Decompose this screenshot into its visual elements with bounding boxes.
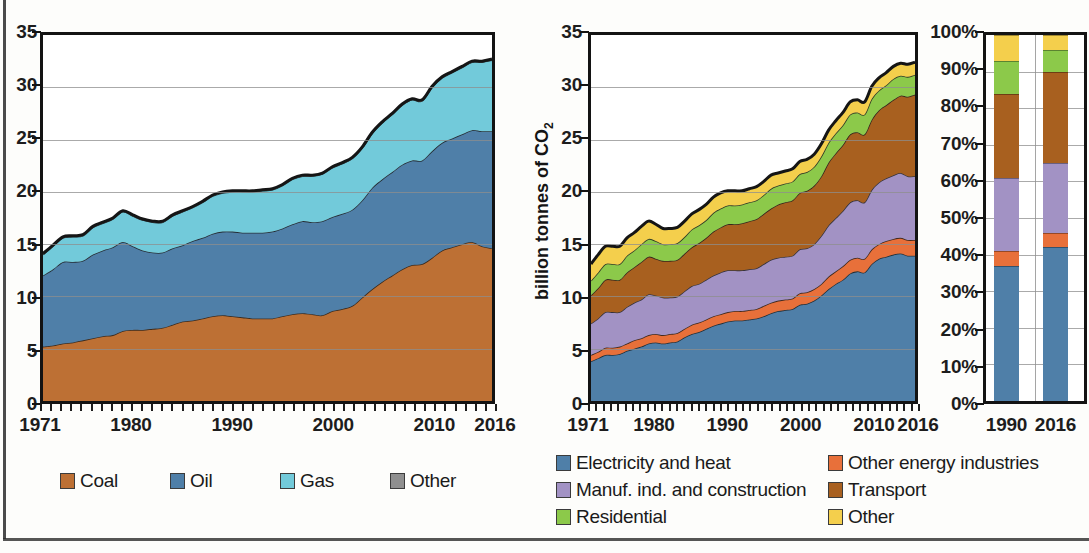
stacked-bar-2016[interactable] [1043,35,1069,401]
x-axis-co2-by-fuel-minor-tick [60,404,62,411]
x-axis-co2-by-fuel-minor-tick [364,404,366,411]
bar-segment-transport [994,94,1020,178]
y-axis-co2-by-fuel-tick-mark [32,31,41,33]
x-axis-co2-by-sector-minor-tick [603,404,605,411]
legend-sector-item[interactable]: Other [828,506,894,528]
gridline-co2-by-fuel [43,296,492,297]
legend-sector-label: Other [848,506,894,528]
legend-sector-item[interactable]: Other energy industries [828,452,1039,474]
x-axis-co2-by-fuel-minor-tick [495,404,497,411]
legend-sector-item[interactable]: Electricity and heat [556,452,731,474]
y-axis-sector-share-tick-mark [975,329,984,331]
y-axis-sector-share-tick-mark [975,254,984,256]
y-axis-co2-by-sector-tick-label: 25 [561,127,582,149]
y-axis-co2-by-sector-tick-label: 35 [561,21,582,43]
legend-sector-item[interactable]: Transport [828,479,926,501]
x-axis-co2-by-sector-minor-tick [676,404,678,411]
y-axis-co2-by-sector-tick-label: 30 [561,74,582,96]
x-axis-co2-by-fuel-minor-tick [101,404,103,411]
x-axis-co2-by-fuel-minor-tick [121,404,123,411]
x-axis-co2-by-sector-minor-tick [911,404,913,411]
y-axis-sector-share-tick-mark [975,403,984,405]
x-axis-co2-by-sector-minor-tick [815,404,817,411]
y-axis-co2-by-sector-tick-mark [580,297,589,299]
y-axis-sector-share-tick-label: 10% [941,356,978,378]
y-axis-co2-by-sector-tick-label: 10 [561,287,582,309]
x-axis-co2-by-fuel-minor-tick [353,404,355,411]
legend-swatch-icon [828,509,843,525]
chart-co2-by-fuel: 05101520253035 197119801990200020102016 [0,0,510,440]
legend-fuel-item[interactable]: Other [390,470,456,492]
x-axis-co2-by-sector-minor-tick [713,404,715,411]
y-axis-co2-by-sector-tick-label: 20 [561,180,582,202]
y-axis-sector-share-tick-mark [975,105,984,107]
x-axis-co2-by-sector-minor-tick [749,404,751,411]
legend-swatch-icon [828,455,843,471]
x-axis-co2-by-fuel-minor-tick [222,404,224,411]
gridline-co2-by-fuel [43,349,492,350]
x-axis-co2-by-fuel-tick-label: 1990 [211,414,252,436]
bar-segment-transport [1043,72,1069,164]
stacked-area-co2-by-fuel [43,35,492,401]
x-axis-co2-by-sector-minor-tick [852,404,854,411]
x-axis-co2-by-fuel-minor-tick [262,404,264,411]
x-axis-co2-by-sector-minor-tick [903,404,905,411]
y-axis-co2-by-fuel-tick-mark [32,297,41,299]
y-axis-sector-share-tick-mark [975,143,984,145]
x-axis-co2-by-fuel-minor-tick [141,404,143,411]
bar-segment-manuf-ind-and-construction [1043,163,1069,233]
legend-swatch-icon [828,482,843,498]
x-axis-co2-by-fuel-minor-tick [475,404,477,411]
legend-fuel-label: Other [410,470,456,492]
gridline-co2-by-sector [591,87,915,88]
x-axis-co2-by-sector-minor-tick [691,404,693,411]
legend-fuel-item[interactable]: Coal [60,470,118,492]
x-axis-co2-by-fuel-minor-tick [434,404,436,411]
bar-segment-residential [994,61,1020,94]
legend-sector-item[interactable]: Manuf. ind. and construction [556,479,806,501]
bar-segment-other-energy-industries [1043,233,1069,248]
gridline-co2-by-sector [591,140,915,141]
x-axis-co2-by-fuel-minor-tick [313,404,315,411]
legend-swatch-icon [60,473,75,489]
legend-sector-label: Electricity and heat [576,452,731,474]
stacked-bar-1990[interactable] [994,35,1020,401]
stacked-area-co2-by-sector [591,35,915,401]
x-axis-co2-by-sector-minor-tick [859,404,861,411]
x-axis-co2-by-sector-minor-tick [801,404,803,411]
x-axis-sector-share-tick-label: 1990 [986,414,1027,436]
legend-swatch-icon [556,482,571,498]
y-axis-co2-by-sector-tick-mark [580,244,589,246]
x-axis-co2-by-sector-minor-tick [683,404,685,411]
y-axis-co2-by-fuel-tick-mark [32,244,41,246]
legend-sector-label: Manuf. ind. and construction [576,479,806,501]
legend-fuel-item[interactable]: Oil [170,470,212,492]
legend-fuels: CoalOilGasOther [60,470,500,510]
legend-fuel-item[interactable]: Gas [280,470,334,492]
x-axis-co2-by-fuel-minor-tick [485,404,487,411]
legend-sector-item[interactable]: Residential [556,506,667,528]
gridline-co2-by-fuel [43,87,492,88]
x-axis-co2-by-sector-minor-tick [632,404,634,411]
x-axis-co2-by-sector-minor-tick [793,404,795,411]
y-axis-sector-share-tick-label: 100% [930,21,978,43]
x-axis-co2-by-fuel-minor-tick [384,404,386,411]
bar-segment-residential [1043,50,1069,72]
x-axis-co2-by-fuel-minor-tick [91,404,93,411]
x-axis-co2-by-fuel-minor-tick [232,404,234,411]
x-axis-co2-by-sector-minor-tick [669,404,671,411]
y-axis-co2-by-fuel-tick-mark [32,84,41,86]
x-axis-co2-by-fuel-minor-tick [151,404,153,411]
x-axis-co2-by-sector-minor-tick [808,404,810,411]
gridline-co2-by-sector [591,244,915,245]
x-axis-co2-by-fuel-minor-tick [283,404,285,411]
x-axis-co2-by-fuel-tick-label: 2000 [312,414,353,436]
gridline-co2-by-sector [591,296,915,297]
y-axis-co2-by-fuel-tick-mark [32,190,41,192]
x-axis-co2-by-fuel-minor-tick [40,404,42,411]
y-axis-co2-by-sector-tick-mark [580,31,589,33]
x-axis-co2-by-fuel-minor-tick [202,404,204,411]
x-axis-co2-by-fuel-tick-label: 1971 [19,414,60,436]
x-axis-co2-by-sector-minor-tick [588,404,590,411]
x-axis-co2-by-fuel-minor-tick [404,404,406,411]
